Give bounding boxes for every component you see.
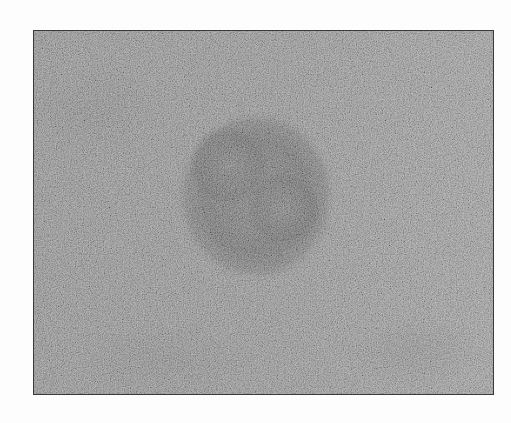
page xyxy=(0,0,511,423)
micrograph-canvas xyxy=(34,31,493,394)
micrograph-image xyxy=(33,30,494,395)
